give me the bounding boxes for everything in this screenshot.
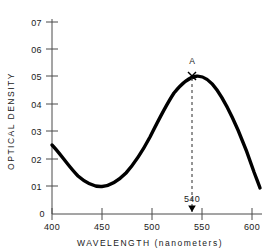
x-tick-label-400: 400 xyxy=(44,222,60,232)
y-tick-label-05: 05 xyxy=(31,72,42,82)
peak-label-a: A xyxy=(189,56,195,66)
y-origin-label: 0 xyxy=(40,209,45,219)
wavelength-540-pointer-icon xyxy=(188,206,196,213)
x-tick-label-600: 600 xyxy=(244,222,260,232)
annotation-label-540: 540 xyxy=(184,194,200,204)
y-tick-label-01: 01 xyxy=(31,182,42,192)
y-tick-label-06: 06 xyxy=(31,45,42,55)
y-tick-label-07: 07 xyxy=(31,18,42,28)
y-axis-tick-labels: 07 06 05 04 03 02 01 0 xyxy=(31,18,45,220)
chart-figure: 07 06 05 04 03 02 01 0 400 450 500 550 6… xyxy=(0,0,267,252)
x-tick-label-450: 450 xyxy=(94,222,110,232)
y-tick-label-04: 04 xyxy=(31,100,42,110)
y-axis-title: OPTICAL DENSITY xyxy=(6,72,16,170)
optical-density-spectrum-chart: 07 06 05 04 03 02 01 0 400 450 500 550 6… xyxy=(0,0,267,252)
x-axis-tick-labels: 400 450 500 550 600 xyxy=(44,222,260,232)
x-tick-label-550: 550 xyxy=(194,222,210,232)
x-tick-label-500: 500 xyxy=(144,222,160,232)
x-axis-title: WAVELENGTH (nanometers) xyxy=(77,238,223,248)
y-tick-label-02: 02 xyxy=(31,155,42,165)
absorption-spectrum-curve xyxy=(52,76,260,188)
y-tick-label-03: 03 xyxy=(31,127,42,137)
